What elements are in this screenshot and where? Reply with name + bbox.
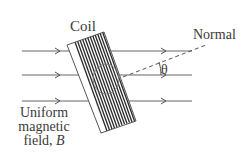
normal-label: Normal — [193, 28, 236, 42]
theta-label: θ — [161, 63, 168, 77]
field-label-line-3: field, B — [6, 134, 82, 148]
magnetic-field-label: Uniform magnetic field, B — [6, 106, 82, 148]
field-label-line-2: magnetic — [6, 120, 82, 134]
field-symbol-b: B — [56, 133, 65, 148]
field-label-line-1: Uniform — [6, 106, 82, 120]
coil-label: Coil — [70, 19, 96, 34]
arrowheads-left — [55, 48, 60, 104]
field-label-prefix: field, — [23, 133, 56, 148]
